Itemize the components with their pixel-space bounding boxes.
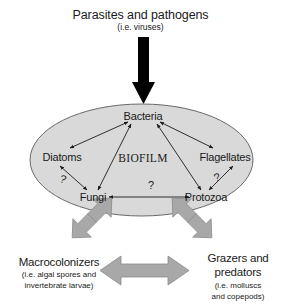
footer-left-sub-line1: (i.e. algal spores and	[0, 270, 118, 280]
diagram-title: Parasites and pathogens	[0, 8, 281, 22]
diagram-subtitle: (i.e. viruses)	[0, 23, 281, 33]
footer-right-title-line2: predators	[195, 266, 281, 279]
footer-right-sub-line1: (i.e. molluscs	[195, 281, 281, 291]
footer-right-sub-line2: and copepods)	[195, 292, 281, 302]
node-bacteria: Bacteria	[113, 110, 173, 123]
question-mark-fungi-protozoa: ?	[142, 179, 160, 192]
node-fungi: Fungi	[71, 191, 115, 204]
parasites-input-arrow	[132, 37, 155, 104]
node-flagellates: Flagellates	[191, 151, 259, 164]
biofilm-label: BIOFILM	[111, 152, 175, 165]
footer-left-sub-line2: invertebrate larvae)	[0, 281, 118, 291]
footer-right-title-line1: Grazers and	[195, 252, 281, 265]
footer-left-title: Macrocolonizers	[0, 256, 118, 269]
node-protozoa: Protozoa	[176, 191, 236, 204]
biofilm-interaction-diagram: Parasites and pathogens (i.e. viruses) B…	[0, 0, 281, 308]
node-diatoms: Diatoms	[32, 151, 92, 164]
